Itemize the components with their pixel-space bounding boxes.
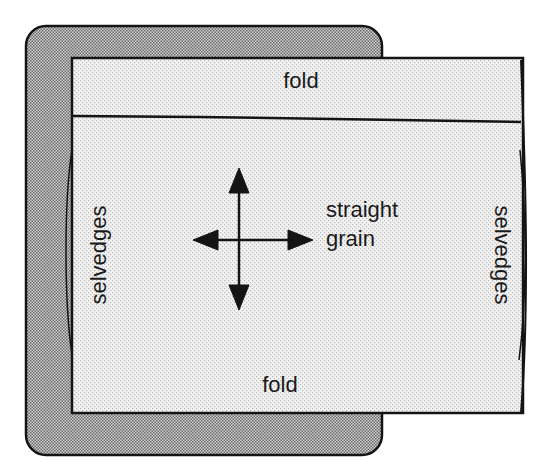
fold-label-bottom: fold xyxy=(262,372,297,397)
fold-label-top: fold xyxy=(283,68,318,93)
straight-grain-label-line2: grain xyxy=(326,226,375,251)
fabric-grain-diagram: fold fold straight grain selvedges selve… xyxy=(0,0,557,476)
selvedges-label-right: selvedges xyxy=(490,205,515,304)
selvedges-label-left: selvedges xyxy=(86,205,111,304)
straight-grain-label-line1: straight xyxy=(326,197,398,222)
